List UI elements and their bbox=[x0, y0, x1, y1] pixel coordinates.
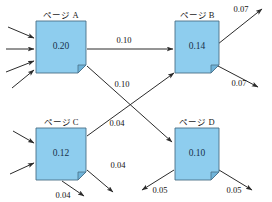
incoming-arrows-page-a bbox=[6, 27, 34, 88]
outgoing-arrow-c-right bbox=[87, 170, 113, 192]
incoming-arrow-c-1 bbox=[13, 131, 34, 143]
node-fold-b bbox=[211, 65, 219, 73]
node-value-c: 0.12 bbox=[53, 148, 70, 158]
node-title-b: ページ B bbox=[180, 10, 215, 20]
node-value-d: 0.10 bbox=[189, 148, 206, 158]
node-title-a: ページ A bbox=[43, 10, 79, 20]
node-value-b: 0.14 bbox=[189, 41, 206, 51]
node-title-c: ページ C bbox=[44, 117, 79, 127]
node-fold-d bbox=[211, 172, 219, 180]
edge-label-a-to-d: 0.10 bbox=[115, 79, 130, 89]
node-title-d: ページ D bbox=[179, 117, 214, 127]
edge-label-c-to-b: 0.04 bbox=[110, 118, 126, 128]
node-page-d[interactable]: ページ D 0.10 bbox=[175, 117, 219, 180]
node-page-b[interactable]: ページ B 0.14 bbox=[175, 10, 219, 73]
edge-label-c-out-right: 0.04 bbox=[111, 160, 127, 170]
edge-label-c-out-bottom: 0.04 bbox=[56, 190, 72, 200]
edge-a-to-d bbox=[87, 66, 172, 142]
node-fold-c bbox=[78, 172, 86, 180]
node-value-a: 0.20 bbox=[53, 41, 70, 51]
incoming-arrow-a-1 bbox=[8, 27, 34, 38]
incoming-arrow-a-4 bbox=[12, 70, 34, 88]
pagerank-diagram: ページ A 0.20 ページ B 0.14 ページ C 0.12 ページ D 0… bbox=[0, 0, 272, 202]
outgoing-arrow-b-upper-right bbox=[218, 9, 262, 44]
edge-c-to-b bbox=[87, 73, 174, 136]
node-page-a[interactable]: ページ A 0.20 bbox=[36, 10, 86, 73]
edge-label-d-out-right: 0.05 bbox=[227, 185, 242, 195]
edge-label-a-to-b: 0.10 bbox=[117, 35, 132, 45]
incoming-arrows-page-c bbox=[10, 131, 34, 174]
incoming-arrow-a-3 bbox=[6, 61, 34, 72]
node-fold-a bbox=[78, 65, 86, 73]
edge-label-b-out-upper: 0.07 bbox=[234, 4, 249, 14]
diagram-canvas: ページ A 0.20 ページ B 0.14 ページ C 0.12 ページ D 0… bbox=[0, 0, 272, 202]
incoming-arrow-c-2 bbox=[10, 163, 34, 174]
node-page-c[interactable]: ページ C 0.12 bbox=[36, 117, 86, 180]
edge-label-d-out-left: 0.05 bbox=[153, 185, 168, 195]
edge-label-b-out-lower: 0.07 bbox=[232, 78, 247, 88]
